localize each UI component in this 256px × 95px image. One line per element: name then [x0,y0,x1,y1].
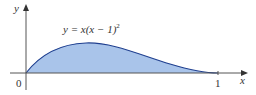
x-tick-label-0: 0 [16,77,22,89]
x-tick-label-1: 1 [215,77,221,89]
chart: y x 0 1 y = x(x − 1)2 [0,0,256,95]
shaded-region [26,43,218,73]
equation-exponent: 2 [116,22,120,30]
x-axis-label: x [239,74,245,86]
y-axis-label: y [13,2,19,14]
equation-text: y = x(x − 1) [62,23,117,36]
equation-label: y = x(x − 1)2 [62,22,120,36]
y-axis-arrow-icon [23,4,29,11]
